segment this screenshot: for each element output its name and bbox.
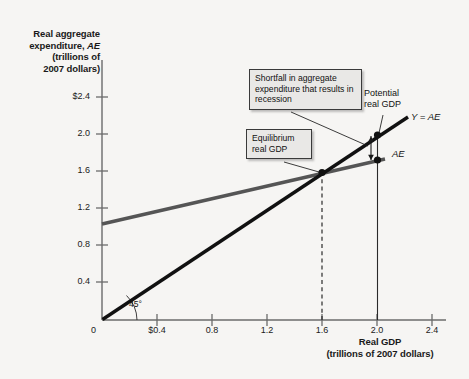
y-at-potential-marker bbox=[374, 131, 381, 138]
ae-line bbox=[102, 159, 385, 224]
x-tick-label-1.2: 1.2 bbox=[247, 325, 287, 335]
x-tick-label-1.6: 1.6 bbox=[302, 325, 342, 335]
ae-at-potential-marker bbox=[374, 156, 381, 163]
potential-real-gdp-label-line-1: Potential bbox=[364, 88, 399, 98]
y-axis-title: Real aggregate expenditure, AE (trillion… bbox=[14, 28, 100, 74]
callout-equilibrium-real-gdp: Equilibrium real GDP bbox=[246, 129, 312, 159]
potential-real-gdp-label: Potential real GDP bbox=[364, 88, 401, 109]
equilibrium-callout-leader bbox=[284, 162, 319, 172]
potential-real-gdp-label-line-2: real GDP bbox=[364, 99, 401, 109]
y-axis-title-line-2-prefix: expenditure, bbox=[29, 40, 87, 51]
curve-label-ae: AE bbox=[392, 148, 405, 159]
y-tick-label-0.8: 0.8 bbox=[56, 239, 90, 249]
callout-shortfall-in-aggregate-expenditure: Shortfall in aggregate expenditure that … bbox=[249, 69, 362, 110]
origin-label: 0 bbox=[91, 325, 96, 335]
y-axis-title-line-1: Real aggregate bbox=[33, 28, 100, 39]
y-tick-label-0.4: 0.4 bbox=[56, 276, 90, 286]
y-tick-label-2.0: 2.0 bbox=[56, 128, 90, 138]
equilibrium-point-marker bbox=[318, 169, 325, 176]
y-axis-title-line-4: 2007 dollars) bbox=[43, 63, 100, 74]
y-axis-title-line-3: (trillions of bbox=[52, 51, 100, 62]
y-tick-label-1.2: 1.2 bbox=[56, 202, 90, 212]
y-axis-title-italic-ae: AE bbox=[87, 40, 100, 51]
y-tick-label-1.6: 1.6 bbox=[56, 165, 90, 175]
x-axis-title-line-2: (trillions of 2007 dollars) bbox=[326, 348, 433, 359]
x-tick-label-2.0: 2.0 bbox=[357, 325, 397, 335]
potential-gdp-leader bbox=[379, 115, 383, 133]
x-tick-label-0.4: $0.4 bbox=[137, 325, 177, 335]
x-tick-label-2.4: 2.4 bbox=[412, 325, 452, 335]
x-tick-label-0.8: 0.8 bbox=[192, 325, 232, 335]
angle-label-45-degrees: 45° bbox=[129, 299, 142, 309]
y-tick-label-2.4: $2.4 bbox=[56, 91, 90, 101]
x-axis-title: Real GDP (trillions of 2007 dollars) bbox=[300, 336, 460, 359]
x-axis-title-line-1: Real GDP bbox=[359, 336, 402, 347]
curve-label-y-equals-ae: Y = AE bbox=[411, 111, 440, 122]
